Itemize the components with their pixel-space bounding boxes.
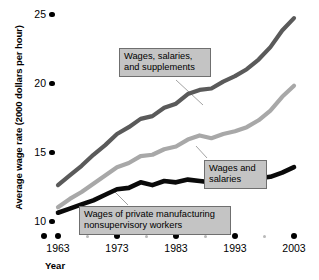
callout-wages-salaries-line2: salaries (209, 174, 262, 185)
callout-wages-salaries-line1: Wages and (209, 163, 262, 174)
plot-area (0, 0, 319, 280)
callout-wages-salaries: Wages and salaries (204, 160, 267, 189)
callout-nonsupervisory-line2: nonsupervisory workers (84, 220, 226, 231)
leader-line-wages-salaries (196, 146, 207, 158)
callout-supplements-line1: Wages, salaries, (124, 51, 206, 62)
callout-supplements: Wages, salaries, and supplements (119, 48, 211, 77)
wage-rate-line-chart: Average wage rate (2000 dollars per hour… (0, 0, 319, 280)
callout-supplements-line2: and supplements (124, 62, 206, 73)
callout-nonsupervisory: Wages of private manufacturing nonsuperv… (79, 206, 231, 235)
callout-nonsupervisory-line1: Wages of private manufacturing (84, 209, 226, 220)
